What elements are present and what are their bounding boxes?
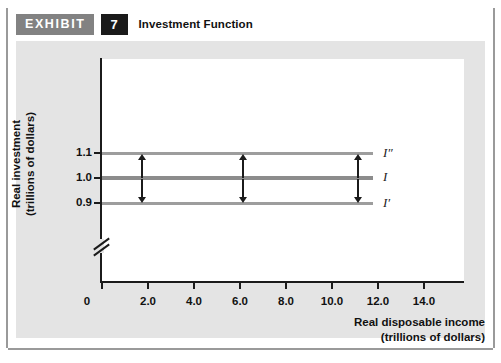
x-tick-label-2-0: 2.0 — [128, 295, 168, 307]
y-tick-label-0-9: 0.9 — [62, 196, 92, 208]
shift-arrow-down-1 — [137, 179, 146, 203]
x-axis-title-line1: Real disposable income — [290, 315, 485, 330]
x-axis-title-line2: (trillions of dollars) — [290, 330, 485, 345]
x-axis-title: Real disposable income (trillions of dol… — [290, 315, 485, 345]
shift-arrow-down-2 — [238, 179, 247, 203]
y-tick-labels: 1.1 1.0 0.9 — [56, 0, 92, 363]
y-axis-title-line1: Real investment — [9, 89, 23, 239]
exhibit-figure: EXHIBIT 7 Investment Function 1.1 1.0 0.… — [0, 0, 501, 363]
x-tick-label-12-0: 12.0 — [358, 295, 398, 307]
y-tick-label-1-1: 1.1 — [62, 146, 92, 158]
y-axis-title: Real investment (trillions of dollars) — [9, 89, 37, 239]
x-tick-label-8-0: 8.0 — [266, 295, 306, 307]
y-axis-break-icon — [92, 236, 112, 258]
line-label-i-double-prime: I″ — [383, 145, 393, 161]
x-tick-label-14-0: 14.0 — [404, 295, 444, 307]
x-axis-line — [100, 281, 464, 283]
y-tick-label-1-0: 1.0 — [62, 171, 92, 183]
shift-arrow-up-2 — [238, 154, 247, 178]
exhibit-title: Investment Function — [139, 18, 253, 30]
shift-arrow-up-3 — [353, 154, 362, 178]
right-border-rule — [493, 8, 495, 348]
shift-arrow-down-3 — [353, 179, 362, 203]
x-tick-label-4-0: 4.0 — [174, 295, 214, 307]
x-tick-label-0: 0 — [67, 295, 107, 307]
x-tick-label-6-0: 6.0 — [220, 295, 260, 307]
exhibit-header: EXHIBIT 7 Investment Function — [16, 13, 253, 35]
plot-area — [101, 59, 464, 282]
line-label-i-prime: I′ — [383, 195, 390, 211]
y-axis-title-line2: (trillions of dollars) — [23, 89, 37, 239]
line-label-i: I — [383, 169, 387, 185]
exhibit-number-badge: 7 — [101, 14, 128, 35]
shift-arrow-up-1 — [137, 154, 146, 178]
x-tick-label-10-0: 10.0 — [312, 295, 352, 307]
left-border-rule — [6, 8, 8, 348]
